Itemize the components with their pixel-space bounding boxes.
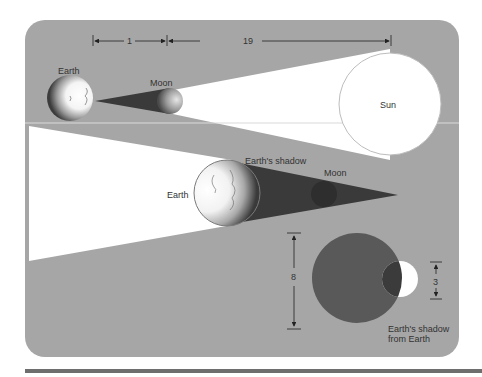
- earth-top: [47, 75, 93, 121]
- moon-size-value: 3: [433, 277, 438, 287]
- eclipse-diagram: Sun Earth Moon 1 19 Earth Earth's shadow…: [0, 0, 482, 377]
- moon-in-shadow: [311, 181, 337, 207]
- caption-line-2: from Earth: [388, 334, 430, 344]
- moon-top: [157, 88, 183, 114]
- moon-top-label: Moon: [150, 78, 173, 88]
- earth-middle: [194, 160, 260, 226]
- earth-shadow-label: Earth's shadow: [245, 156, 307, 166]
- earth-top-label: Earth: [58, 66, 80, 76]
- sun-label: Sun: [380, 100, 396, 110]
- distance-earth-moon: 1: [127, 36, 132, 46]
- bottom-rule: [25, 369, 482, 373]
- distance-moon-sun: 19: [243, 36, 253, 46]
- earth-middle-label: Earth: [167, 190, 189, 200]
- shadow-size-value: 8: [291, 272, 296, 282]
- caption-line-1: Earth's shadow: [388, 324, 450, 334]
- moon-middle-label: Moon: [324, 168, 347, 178]
